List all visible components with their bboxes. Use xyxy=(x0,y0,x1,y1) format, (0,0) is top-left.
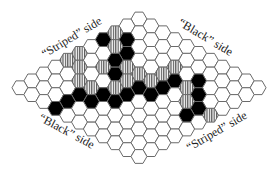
hex-board xyxy=(0,0,276,174)
hex-cell-empty xyxy=(131,150,147,164)
hex-cells xyxy=(12,12,266,163)
